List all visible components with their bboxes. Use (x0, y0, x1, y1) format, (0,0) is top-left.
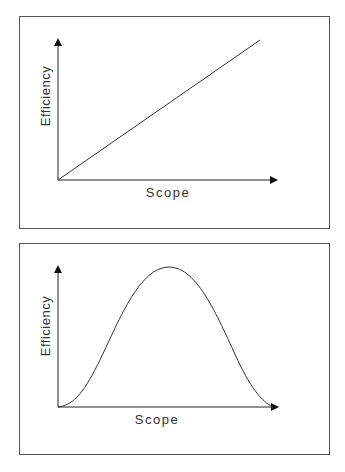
top-chart: Scope Efficiency (38, 38, 278, 200)
top-x-label: Scope (146, 185, 190, 200)
bottom-y-axis-arrow-icon (54, 265, 62, 273)
bottom-y-label: Efficiency (38, 296, 53, 356)
bottom-bell-curve (58, 267, 273, 407)
top-y-label: Efficiency (38, 66, 53, 126)
top-y-axis-arrow-icon (54, 38, 62, 46)
bottom-chart: Scope Efficiency (38, 265, 279, 427)
bottom-x-label: Scope (135, 412, 179, 427)
diagram-canvas: Scope Efficiency Scope Efficiency (0, 0, 345, 472)
top-linear-curve (58, 40, 260, 180)
top-x-axis-arrow-icon (270, 176, 278, 184)
